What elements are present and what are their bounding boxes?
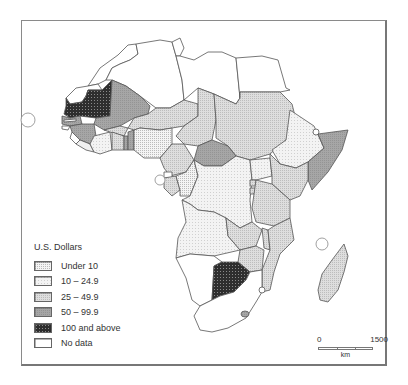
- swatch-100-up-icon: [34, 323, 52, 333]
- scale-unit: km: [318, 351, 373, 358]
- legend-item-50-99: 50 – 99.9: [34, 305, 121, 321]
- scale-bar-line: [318, 347, 373, 350]
- region-lesotho: [241, 311, 249, 317]
- region-madagascar: [318, 244, 348, 302]
- island-canary: [21, 113, 35, 127]
- swatch-50-99-icon: [34, 307, 52, 317]
- region-gambia: [64, 119, 76, 122]
- legend-item-100-up: 100 and above: [34, 320, 121, 336]
- island-comoros: [316, 238, 328, 250]
- swatch-25-49-icon: [34, 292, 52, 302]
- region-benin: [128, 130, 134, 150]
- region-uganda: [250, 158, 272, 180]
- legend-label: 50 – 99.9: [61, 307, 99, 317]
- swatch-under-10-icon: [34, 261, 52, 271]
- legend: U.S. Dollars Under 10 10 – 24.9 25 – 49.…: [34, 242, 121, 351]
- scale-bar: 0 1500 km: [318, 335, 378, 358]
- swatch-10-24-icon: [34, 276, 52, 286]
- legend-label: 10 – 24.9: [61, 276, 99, 286]
- legend-item-10-24: 10 – 24.9: [34, 274, 121, 290]
- legend-item-25-49: 25 – 49.9: [34, 289, 121, 305]
- scale-max-label: 1500: [370, 335, 388, 344]
- region-togo: [124, 136, 128, 150]
- legend-label: Under 10: [61, 261, 98, 271]
- region-guinea-bissau: [62, 126, 70, 130]
- region-swaziland: [259, 287, 265, 293]
- legend-title: U.S. Dollars: [34, 242, 121, 252]
- scale-min-label: 0: [317, 335, 321, 344]
- legend-item-no-data: No data: [34, 336, 121, 352]
- region-mozambique: [262, 218, 294, 292]
- legend-label: No data: [61, 338, 93, 348]
- legend-label: 100 and above: [61, 323, 121, 333]
- legend-item-under-10: Under 10: [34, 258, 121, 274]
- island-sao-tome: [155, 175, 165, 185]
- swatch-no-data-icon: [34, 338, 52, 348]
- legend-label: 25 – 49.9: [61, 292, 99, 302]
